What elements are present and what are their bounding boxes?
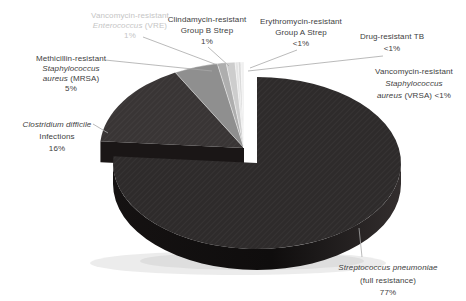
leader-line-mrsa	[105, 60, 212, 71]
leader-line-drug-resistant-tb	[248, 56, 383, 71]
pie-3d-svg	[0, 0, 466, 301]
antibiotic-resistance-pie-chart: Streptococcus pneumoniae(full resistance…	[0, 0, 466, 301]
leader-line-group-a-strep	[250, 50, 297, 68]
leader-line-vre	[143, 37, 220, 66]
